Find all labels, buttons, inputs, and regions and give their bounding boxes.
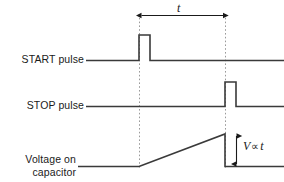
voltage-relation-label: V∝t [243,139,264,154]
stop-pulse-trace [86,82,284,107]
stop-pulse-label: STOP pulse [0,99,84,112]
timing-diagram-figure: START pulse STOP pulse Voltage on capaci… [0,0,284,182]
start-pulse-label: START pulse [0,53,84,66]
time-interval-label: t [177,1,180,16]
start-pulse-trace [86,35,284,61]
time-symbol: t [260,139,263,153]
capacitor-voltage-label: Voltage on capacitor [0,153,76,178]
proportional-to-icon: ∝ [250,140,260,152]
